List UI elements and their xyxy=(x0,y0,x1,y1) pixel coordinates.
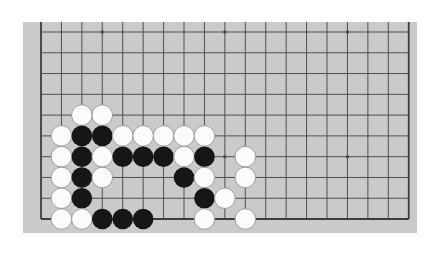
black-stone xyxy=(194,188,215,209)
black-stone xyxy=(92,209,113,230)
white-stone xyxy=(92,105,113,126)
white-stone xyxy=(153,126,174,147)
black-stone xyxy=(72,126,93,147)
black-stone xyxy=(133,209,154,230)
black-stone xyxy=(72,188,93,209)
white-stone xyxy=(174,126,195,147)
black-stone xyxy=(174,167,195,188)
black-stone xyxy=(112,209,133,230)
white-stone xyxy=(235,167,256,188)
go-board xyxy=(23,22,417,233)
white-stone xyxy=(51,188,72,209)
black-stone xyxy=(194,146,215,167)
star-point xyxy=(346,30,350,34)
white-stone xyxy=(51,209,72,230)
white-stone xyxy=(194,126,215,147)
white-stone xyxy=(92,146,113,167)
white-stone xyxy=(235,209,256,230)
black-stone xyxy=(72,167,93,188)
white-stone xyxy=(92,167,113,188)
black-stone xyxy=(72,146,93,167)
white-stone xyxy=(194,167,215,188)
white-stone xyxy=(215,188,236,209)
white-stone xyxy=(174,146,195,167)
black-stone xyxy=(133,146,154,167)
black-stone xyxy=(92,126,113,147)
white-stone xyxy=(235,146,256,167)
star-point xyxy=(346,155,350,159)
white-stone xyxy=(112,126,133,147)
white-stone xyxy=(194,209,215,230)
star-point xyxy=(223,155,227,159)
black-stone xyxy=(112,146,133,167)
star-point xyxy=(223,30,227,34)
go-board-svg xyxy=(23,22,417,233)
scanned-page xyxy=(0,0,446,254)
white-stone xyxy=(51,146,72,167)
black-stone xyxy=(153,146,174,167)
white-stone xyxy=(133,126,154,147)
star-point xyxy=(100,30,104,34)
white-stone xyxy=(51,167,72,188)
white-stone xyxy=(72,105,93,126)
white-stone xyxy=(51,126,72,147)
white-stone xyxy=(72,209,93,230)
